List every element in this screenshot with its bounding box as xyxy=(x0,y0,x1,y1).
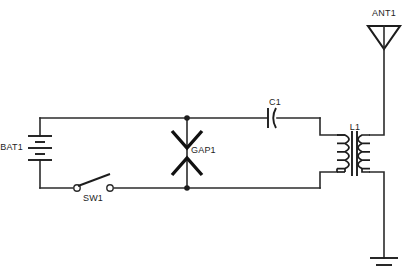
component-capacitor-c1[interactable]: C1 xyxy=(268,97,281,128)
antenna-ref-label: ANT1 xyxy=(372,8,396,18)
component-battery-bat1[interactable]: BAT1 xyxy=(0,136,52,160)
junction-dot-bottom xyxy=(184,185,190,191)
wire-jog-primary-bottom xyxy=(320,172,337,188)
component-spark-gap-gap1[interactable]: GAP1 xyxy=(172,115,216,191)
battery-ref-label: BAT1 xyxy=(0,142,23,152)
wire-secondary-to-antenna xyxy=(370,47,384,135)
capacitor-ref-label: C1 xyxy=(269,97,281,107)
transformer-secondary-winding xyxy=(358,135,370,169)
circuit-diagram: BAT1 SW1 GAP1 C1 xyxy=(0,0,406,280)
switch-blade xyxy=(78,174,110,186)
component-antenna-ant1[interactable]: ANT1 xyxy=(368,8,400,49)
component-switch-sw1[interactable]: SW1 xyxy=(74,174,113,203)
schematic-canvas: BAT1 SW1 GAP1 C1 xyxy=(0,0,406,280)
switch-ref-label: SW1 xyxy=(83,193,103,203)
spark-gap-ref-label: GAP1 xyxy=(191,145,216,155)
component-transformer-l1[interactable]: L1 xyxy=(337,122,370,176)
wire-secondary-to-ground xyxy=(370,172,384,258)
junction-dot-top xyxy=(184,115,190,121)
capacitor-plate-curved xyxy=(273,108,276,128)
component-ground[interactable] xyxy=(370,258,398,265)
transformer-ref-label: L1 xyxy=(350,122,360,132)
transformer-primary-winding xyxy=(337,135,349,172)
switch-terminal-right xyxy=(107,185,113,191)
wire-jog-primary-top xyxy=(320,118,337,135)
